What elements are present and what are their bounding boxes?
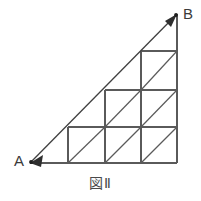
cell-diagonal-r2c3 [141,90,177,127]
grid-vertical-lines [68,51,141,163]
figure-diagram [0,0,201,201]
cell-diagonal-r3c2 [105,127,141,163]
cell-diagonal-r3c1 [68,127,105,163]
vertex-point-b [174,13,178,17]
cell-diagonal-r1c3 [141,51,177,90]
hypotenuse-line [30,14,177,163]
vertex-label-a: A [14,153,24,168]
cell-diagonal-r3c3 [141,127,177,163]
figure-caption: 図Ⅱ [0,176,201,190]
cell-diagonal-r2c2 [105,90,141,127]
vertex-label-b: B [183,6,193,21]
vertex-point-a [29,160,33,164]
figure-container: A B 図Ⅱ [0,0,201,201]
grid-horizontal-lines [68,51,177,127]
